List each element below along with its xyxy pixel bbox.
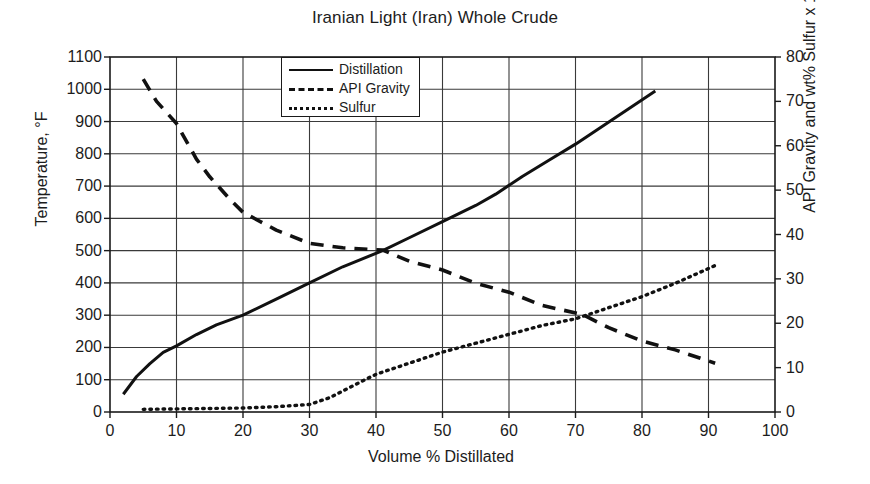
y-tick-label-left-200: 200 — [30, 338, 102, 356]
legend-item-distillation: Distillation — [282, 59, 421, 78]
y-tick-label-right-50: 50 — [786, 181, 836, 199]
x-tick-label-100: 100 — [762, 422, 789, 440]
y-tick-label-left-400: 400 — [30, 274, 102, 292]
y-tick-label-left-0: 0 — [30, 403, 102, 421]
y-tick-label-right-20: 20 — [786, 314, 836, 332]
x-tick-label-40: 40 — [367, 422, 385, 440]
legend-label-api-gravity: API Gravity — [339, 80, 410, 96]
y-tick-label-left-1100: 1100 — [30, 48, 102, 66]
legend-swatch-solid-icon — [287, 62, 335, 76]
chart-figure: Iranian Light (Iran) Whole Crude Tempera… — [0, 0, 870, 484]
x-tick-label-80: 80 — [633, 422, 651, 440]
y-tick-label-right-30: 30 — [786, 270, 836, 288]
y-tick-label-left-600: 600 — [30, 209, 102, 227]
x-tick-label-0: 0 — [106, 422, 115, 440]
chart-legend: Distillation API Gravity Sulfur — [281, 57, 420, 117]
y-axis-label-left: Temperature, °F — [33, 39, 51, 299]
x-tick-label-20: 20 — [234, 422, 252, 440]
chart-title: Iranian Light (Iran) Whole Crude — [0, 8, 870, 28]
legend-swatch-dashed-icon — [287, 81, 335, 95]
y-tick-label-left-300: 300 — [30, 306, 102, 324]
y-tick-label-right-40: 40 — [786, 226, 836, 244]
plot-area — [0, 0, 870, 484]
y-tick-label-right-60: 60 — [786, 137, 836, 155]
legend-item-api-gravity: API Gravity — [282, 78, 421, 97]
legend-swatch-dotted-icon — [287, 100, 335, 114]
y-tick-label-right-10: 10 — [786, 359, 836, 377]
legend-label-distillation: Distillation — [339, 61, 403, 77]
x-tick-label-60: 60 — [500, 422, 518, 440]
legend-label-sulfur: Sulfur — [339, 99, 376, 115]
x-tick-label-30: 30 — [301, 422, 319, 440]
y-tick-label-left-800: 800 — [30, 145, 102, 163]
y-tick-label-left-1000: 1000 — [30, 80, 102, 98]
y-tick-label-left-900: 900 — [30, 113, 102, 131]
y-tick-label-left-500: 500 — [30, 242, 102, 260]
y-tick-label-left-100: 100 — [30, 371, 102, 389]
y-tick-label-right-70: 70 — [786, 92, 836, 110]
x-tick-label-10: 10 — [168, 422, 186, 440]
legend-item-sulfur: Sulfur — [282, 97, 421, 116]
x-tick-label-50: 50 — [434, 422, 452, 440]
x-axis-label: Volume % Distillated — [107, 448, 775, 466]
y-tick-label-right-0: 0 — [786, 403, 836, 421]
x-tick-label-90: 90 — [700, 422, 718, 440]
y-tick-label-left-700: 700 — [30, 177, 102, 195]
y-tick-label-right-80: 80 — [786, 48, 836, 66]
x-tick-label-70: 70 — [567, 422, 585, 440]
